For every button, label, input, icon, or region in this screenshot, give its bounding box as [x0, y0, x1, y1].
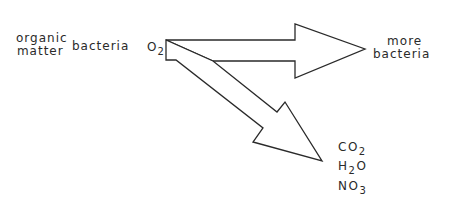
label-organic-matter: organic matter — [13, 32, 68, 58]
label-oxygen: O2 — [147, 41, 165, 54]
label-bacteria: bacteria — [72, 40, 129, 53]
product-h2o: H2O — [338, 160, 367, 177]
product-no3: NO3 — [338, 180, 367, 197]
split-arrow-diagram — [0, 0, 460, 214]
label-more-bacteria: more bacteria — [373, 35, 430, 61]
product-co2: CO2 — [338, 141, 367, 158]
